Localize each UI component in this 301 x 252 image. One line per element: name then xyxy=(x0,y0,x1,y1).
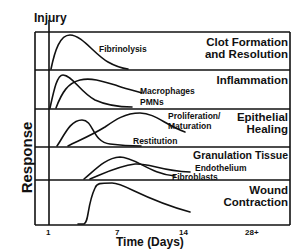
row-title-inflammation: Inflammation xyxy=(216,74,288,86)
x-tick-28-plus: 28+ xyxy=(245,229,259,237)
wound-contraction-curve xyxy=(78,183,190,224)
injury-label: Injury xyxy=(34,12,67,24)
macrophages-curve xyxy=(56,79,142,108)
row-title-clot-formation: Clot Formation and Resolution xyxy=(205,36,288,60)
row-title-line: Clot Formation xyxy=(205,36,288,48)
x-tick-1: 1 xyxy=(46,229,50,237)
curve-label-proliferation: Proliferation/ xyxy=(168,112,220,121)
curve-label-fibroblasts: Fibroblasts xyxy=(172,173,218,182)
curve-label-maturation: Maturation xyxy=(168,122,211,131)
curve-label-fibrinolysis: Fibrinolysis xyxy=(99,45,147,54)
row-title-line: Inflammation xyxy=(216,74,288,86)
y-axis-label: Response xyxy=(19,118,34,198)
row-title-granulation-tissue: Granulation Tissue xyxy=(193,150,288,161)
row-title-line: Granulation Tissue xyxy=(193,150,288,161)
row-title-line: Epithelial xyxy=(237,111,288,123)
curve-label-restitution: Restitution xyxy=(133,137,177,146)
curve-label-macrophages: Macrophages xyxy=(140,87,195,96)
row-title-line: Wound xyxy=(223,184,288,196)
row-title-line: Healing xyxy=(237,123,288,135)
row-title-wound-contraction: Wound Contraction xyxy=(223,184,288,208)
row-title-line: and Resolution xyxy=(205,48,288,60)
wound-healing-diagram: Injury Response Clot Formation and Resol… xyxy=(0,0,301,252)
restitution-curve xyxy=(57,120,141,146)
row-title-line: Contraction xyxy=(223,196,288,208)
curve-label-pmns: PMNs xyxy=(140,98,164,107)
row-title-epithelial-healing: Epithelial Healing xyxy=(237,111,288,135)
x-axis-label: Time (Days) xyxy=(116,236,184,248)
